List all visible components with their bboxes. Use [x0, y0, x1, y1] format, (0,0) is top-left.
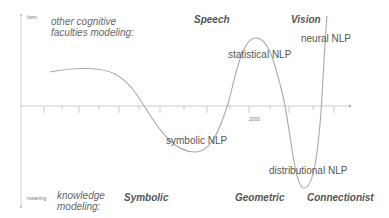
year-2000-label: 2000	[249, 117, 260, 122]
time-axis-arrow	[349, 105, 351, 107]
statistical-nlp-label: statistical NLP	[228, 50, 291, 60]
neural-nlp-label: neural NLP	[301, 34, 351, 44]
vertical-axis-top-dot	[20, 14, 22, 16]
vertical-axis-bottom-dot	[20, 206, 22, 208]
paradigm-speech: Speech	[194, 15, 230, 25]
paradigm-connectionist: Connectionist	[307, 193, 374, 203]
other-faculties-line2: faculties modeling:	[51, 27, 134, 38]
other-faculties-line1: other cognitive	[51, 16, 134, 27]
knowledge-modeling-line2: modeling:	[57, 201, 105, 212]
y-axis-bottom-label: meaning	[27, 196, 46, 201]
nlp-evolution-curve	[50, 16, 327, 188]
paradigm-geometric: Geometric	[235, 193, 284, 203]
knowledge-modeling-line1: knowledge	[57, 190, 105, 201]
other-faculties-modeling-label: other cognitive faculties modeling:	[51, 16, 134, 38]
time-axis-ticks	[44, 106, 334, 113]
distributional-nlp-label: distributional NLP	[269, 166, 347, 176]
symbolic-nlp-label: symbolic NLP	[166, 136, 227, 146]
y-axis-top-label: form	[27, 15, 37, 20]
knowledge-modeling-label: knowledge modeling:	[57, 190, 105, 212]
paradigm-vision: Vision	[291, 15, 321, 25]
paradigm-symbolic: Symbolic	[124, 193, 168, 203]
